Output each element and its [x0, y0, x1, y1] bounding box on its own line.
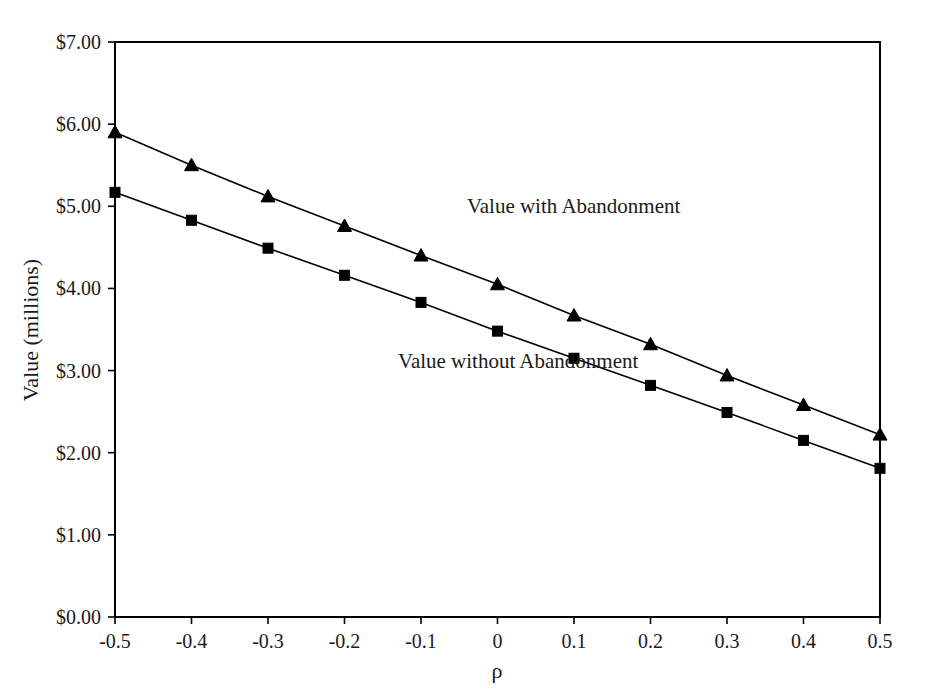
data-point-square-marker: [493, 326, 503, 336]
x-axis-tick-label: 0.3: [715, 630, 740, 652]
y-axis-tick-label: $6.00: [56, 113, 101, 135]
data-point-triangle-marker: [873, 428, 887, 440]
data-series: [108, 125, 887, 440]
series-annotation-label: Value without Abandonment: [398, 349, 638, 373]
data-point-triangle-marker: [797, 398, 811, 410]
x-axis-tick-label: 0.1: [562, 630, 587, 652]
data-point-triangle-marker: [720, 369, 734, 381]
y-axis-title-group: Value (millions): [18, 259, 43, 401]
x-axis-tick-label: -0.3: [252, 630, 284, 652]
data-point-triangle-marker: [108, 125, 122, 137]
data-point-square-marker: [722, 407, 732, 417]
x-axis-title-group: ρ: [492, 658, 503, 683]
y-axis-tick-label: $0.00: [56, 606, 101, 628]
data-point-square-marker: [875, 463, 885, 473]
data-point-square-marker: [646, 380, 656, 390]
value-vs-rho-line-chart: $0.00$1.00$2.00$3.00$4.00$5.00$6.00$7.00…: [0, 0, 937, 698]
y-axis-tick-label: $5.00: [56, 195, 101, 217]
data-point-triangle-marker: [338, 219, 352, 231]
x-axis-tick-label: 0.2: [638, 630, 663, 652]
data-point-square-marker: [799, 435, 809, 445]
x-axis-tick-label: -0.4: [176, 630, 208, 652]
data-point-square-marker: [110, 187, 120, 197]
data-point-triangle-marker: [644, 337, 658, 349]
data-point-square-marker: [416, 297, 426, 307]
chart-container: $0.00$1.00$2.00$3.00$4.00$5.00$6.00$7.00…: [0, 0, 937, 698]
data-point-triangle-marker: [185, 158, 199, 170]
data-point-triangle-marker: [261, 189, 275, 201]
data-point-triangle-marker: [414, 249, 428, 261]
y-axis-tick-label: $2.00: [56, 442, 101, 464]
x-axis-tick-label: 0.4: [791, 630, 816, 652]
x-axis-title: ρ: [492, 658, 503, 683]
data-series: [110, 187, 885, 473]
y-axis-tick-label: $1.00: [56, 524, 101, 546]
series-annotation-label: Value with Abandonment: [467, 194, 681, 218]
x-axis-ticks: -0.5-0.4-0.3-0.2-0.100.10.20.30.40.5: [99, 617, 892, 652]
data-point-triangle-marker: [491, 277, 505, 289]
x-axis-tick-label: -0.5: [99, 630, 131, 652]
data-point-triangle-marker: [567, 309, 581, 321]
data-point-square-marker: [340, 270, 350, 280]
y-axis-tick-label: $7.00: [56, 31, 101, 53]
x-axis-tick-label: 0: [493, 630, 503, 652]
data-series-group: [108, 125, 887, 473]
y-axis-tick-label: $4.00: [56, 277, 101, 299]
data-point-square-marker: [187, 215, 197, 225]
y-axis-ticks: $0.00$1.00$2.00$3.00$4.00$5.00$6.00$7.00: [56, 31, 115, 628]
y-axis-tick-label: $3.00: [56, 360, 101, 382]
y-axis-title: Value (millions): [18, 259, 43, 401]
x-axis-tick-label: -0.1: [405, 630, 437, 652]
data-point-square-marker: [263, 243, 273, 253]
x-axis-tick-label: 0.5: [868, 630, 893, 652]
x-axis-tick-label: -0.2: [329, 630, 361, 652]
